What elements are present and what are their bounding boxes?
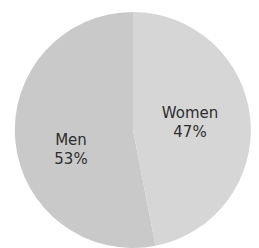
slice-value-men: 53% — [54, 150, 87, 168]
slice-label-women: Women — [162, 104, 218, 122]
slice-label-men: Men — [55, 131, 87, 149]
slice-value-women: 47% — [173, 123, 206, 141]
pie-chart: Women 47% Men 53% — [0, 0, 259, 248]
